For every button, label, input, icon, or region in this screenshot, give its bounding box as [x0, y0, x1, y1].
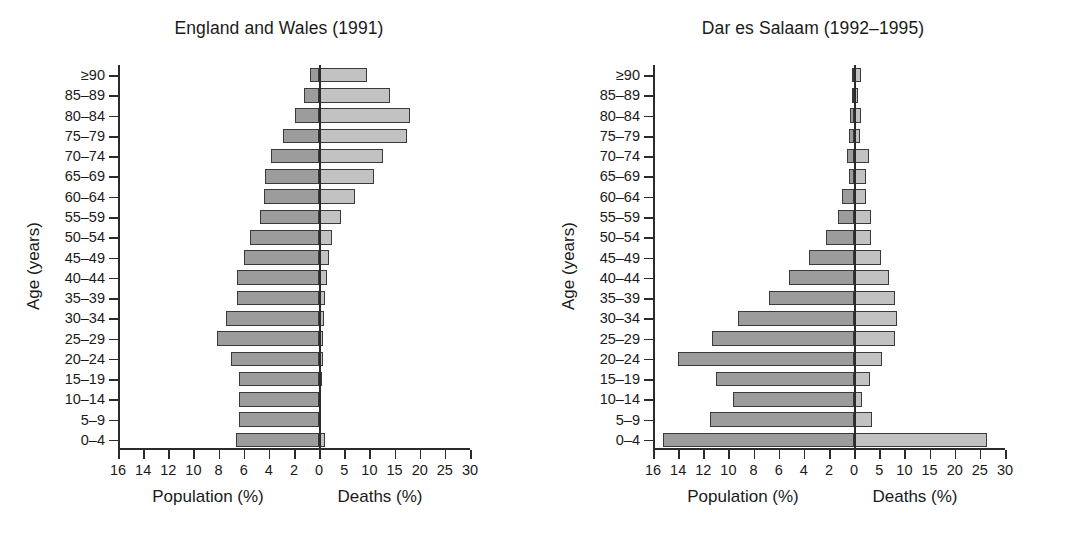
x-axis-tick [369, 450, 371, 459]
y-axis-tick-label: 30–34 [65, 310, 105, 326]
x-axis-tick-label: 20 [412, 462, 428, 478]
chart-panel-england-wales: England and Wales (1991) ≥9085–8980–8475… [0, 0, 532, 534]
y-axis-tick [109, 258, 118, 260]
x-axis-caption-deaths-right: Deaths (%) [872, 487, 957, 507]
x-axis-tick-label: 8 [750, 462, 758, 478]
x-axis-tick [319, 450, 321, 459]
x-axis-tick-label: 15 [921, 462, 937, 478]
y-axis-tick [644, 176, 653, 178]
y-axis-tick-label: 70–74 [600, 148, 640, 164]
x-axis-tick [829, 450, 831, 459]
deaths-bar [854, 352, 882, 367]
x-axis-tick [955, 450, 957, 459]
population-bar [733, 392, 854, 407]
x-axis-tick-label: 16 [645, 462, 661, 478]
population-bar [678, 352, 854, 367]
y-axis-line [653, 65, 655, 450]
y-axis-tick-label: 50–54 [600, 229, 640, 245]
y-axis-tick [644, 258, 653, 260]
population-bar [809, 250, 854, 265]
y-axis-tick-label: 80–84 [600, 108, 640, 124]
population-bar [244, 250, 319, 265]
y-axis-tick-label: 25–29 [65, 331, 105, 347]
y-axis-tick [109, 359, 118, 361]
y-axis-tick [109, 237, 118, 239]
x-axis-tick [445, 450, 447, 459]
y-axis-tick [109, 318, 118, 320]
x-axis-tick [703, 450, 705, 459]
x-axis-tick [269, 450, 271, 459]
x-axis-tick [930, 450, 932, 459]
population-bar [271, 149, 319, 164]
x-axis-tick [193, 450, 195, 459]
x-axis-tick [678, 450, 680, 459]
deaths-bar [854, 270, 889, 285]
x-axis-tick [294, 450, 296, 459]
deaths-bar [854, 331, 895, 346]
x-axis-tick [420, 450, 422, 459]
x-axis-tick-label: 10 [720, 462, 736, 478]
y-axis-tick-label: 65–69 [600, 168, 640, 184]
y-axis-tick-label: 10–14 [65, 391, 105, 407]
deaths-bar [319, 169, 374, 184]
population-bar [712, 331, 854, 346]
y-axis-tick [109, 278, 118, 280]
y-axis-tick [644, 318, 653, 320]
deaths-bar [854, 412, 872, 427]
x-axis-tick-label: 14 [670, 462, 686, 478]
x-axis-tick-label: 20 [947, 462, 963, 478]
y-axis-tick [109, 116, 118, 118]
zero-reference-line [319, 65, 321, 450]
y-axis-tick-label: ≥90 [616, 67, 640, 83]
deaths-bar [319, 108, 410, 123]
x-axis-tick-label: 2 [825, 462, 833, 478]
deaths-bar [854, 372, 870, 387]
x-axis-tick-label: 14 [135, 462, 151, 478]
y-axis-tick [109, 399, 118, 401]
y-axis-tick [109, 440, 118, 442]
x-axis-tick-label: 6 [775, 462, 783, 478]
x-axis-tick [143, 450, 145, 459]
x-axis-tick [754, 450, 756, 459]
y-axis-tick-label: 5–9 [616, 412, 640, 428]
x-axis-tick-label: 0 [850, 462, 858, 478]
population-bar [826, 230, 854, 245]
x-axis-tick-label: 6 [240, 462, 248, 478]
y-axis-tick-label: 20–24 [600, 351, 640, 367]
y-axis-tick-label: 45–49 [600, 250, 640, 266]
y-axis-tick-label: 75–79 [600, 128, 640, 144]
x-axis-tick-label: 10 [896, 462, 912, 478]
y-axis-tick-label: 0–4 [81, 432, 105, 448]
x-axis-tick-label: 30 [462, 462, 478, 478]
x-axis-caption-population-left: Population (%) [152, 487, 264, 507]
y-axis-tick [109, 136, 118, 138]
y-axis-tick-label: 35–39 [65, 290, 105, 306]
population-bar [237, 291, 319, 306]
deaths-bar [319, 129, 407, 144]
x-axis-tick-label: 4 [265, 462, 273, 478]
x-axis-caption-population-right: Population (%) [687, 487, 799, 507]
y-axis-tick [644, 278, 653, 280]
y-axis-tick-label: 45–49 [65, 250, 105, 266]
chart-title-dar-es-salaam: Dar es Salaam (1992–1995) [533, 18, 1065, 39]
y-axis-tick-label: 50–54 [65, 229, 105, 245]
y-axis-tick-label: ≥90 [81, 67, 105, 83]
population-bar [295, 108, 319, 123]
zero-reference-line [854, 65, 856, 450]
y-axis-tick [644, 399, 653, 401]
x-axis-tick-label: 10 [185, 462, 201, 478]
x-axis-tick [904, 450, 906, 459]
y-axis-tick-label: 85–89 [65, 87, 105, 103]
x-axis-tick-label: 25 [437, 462, 453, 478]
y-axis-tick [109, 420, 118, 422]
x-axis-tick [395, 450, 397, 459]
chart-panel-dar-es-salaam: Dar es Salaam (1992–1995) ≥9085–8980–847… [533, 0, 1065, 534]
population-bar [838, 210, 854, 225]
y-axis-tick-label: 40–44 [600, 270, 640, 286]
y-axis-tick [109, 176, 118, 178]
plot-area-england-wales: ≥9085–8980–8475–7970–7465–6960–6455–5950… [118, 65, 470, 450]
x-axis-tick [854, 450, 856, 459]
x-axis-tick [244, 450, 246, 459]
population-bar [239, 372, 319, 387]
x-axis-tick-label: 25 [972, 462, 988, 478]
